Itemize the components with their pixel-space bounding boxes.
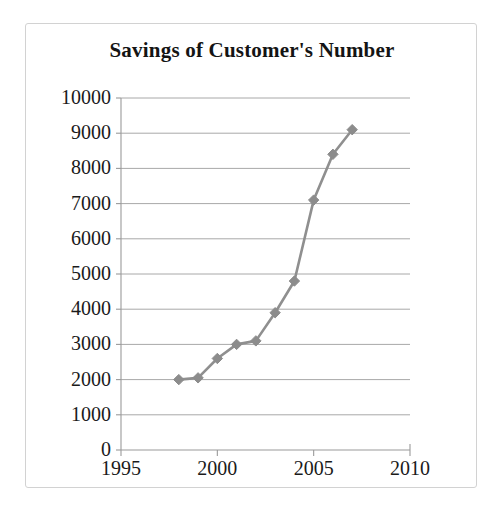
y-axis-tick-label: 4000 bbox=[29, 298, 111, 318]
chart-title: Savings of Customer's Number bbox=[26, 38, 478, 63]
y-axis-tick-label: 3000 bbox=[29, 333, 111, 353]
y-axis-tick-label: 7000 bbox=[29, 193, 111, 213]
x-axis-tick-label: 1995 bbox=[86, 458, 156, 478]
y-axis-tick-label: 2000 bbox=[29, 369, 111, 389]
y-axis-tick-label: 0 bbox=[29, 439, 111, 459]
y-axis-tick-label: 10000 bbox=[29, 87, 111, 107]
y-axis-tick-label: 5000 bbox=[29, 263, 111, 283]
x-axis-tick-label: 2000 bbox=[182, 458, 252, 478]
y-axis-tick-label: 8000 bbox=[29, 157, 111, 177]
y-axis-tick-label: 6000 bbox=[29, 228, 111, 248]
x-axis-tick-label: 2010 bbox=[375, 458, 445, 478]
y-axis-tick-label: 1000 bbox=[29, 404, 111, 424]
y-axis-tick-label: 9000 bbox=[29, 122, 111, 142]
x-axis-tick-label: 2005 bbox=[279, 458, 349, 478]
